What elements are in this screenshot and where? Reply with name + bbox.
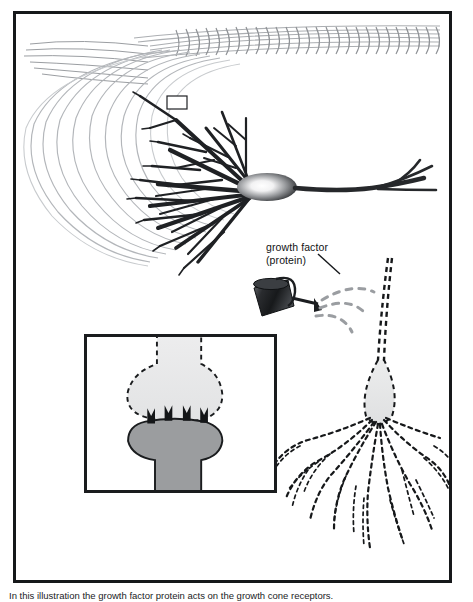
figure-container: growth factor (protein) In this illustra… — [0, 0, 473, 602]
axon-bundle-left-strands — [24, 41, 148, 84]
growth-cone-root-branches — [274, 446, 454, 546]
growth-factor-droplets — [316, 288, 374, 332]
inset-cone-dark — [128, 419, 222, 490]
dendrite-arbor — [136, 96, 254, 268]
soma — [237, 173, 297, 201]
axon — [295, 178, 424, 190]
figure-caption: In this illustration the growth factor p… — [9, 590, 469, 601]
inset-panel — [84, 334, 277, 493]
dashed-axon — [378, 258, 392, 360]
growth-cone-root-arbor — [276, 418, 452, 548]
roi-box-icon — [167, 96, 187, 109]
growth-cone-bulb — [365, 360, 395, 424]
growth-factor-label: growth factor (protein) — [266, 241, 328, 266]
watering-can-icon — [254, 278, 323, 316]
inset-cone-light — [127, 337, 222, 422]
axon-terminal-branches — [378, 160, 436, 190]
inset-artwork — [87, 337, 274, 490]
figure-artwork — [0, 0, 473, 602]
